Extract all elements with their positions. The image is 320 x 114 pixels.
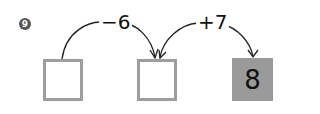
- answer-box-2-value: [140, 62, 174, 98]
- answer-box-2[interactable]: [137, 59, 177, 101]
- operation-label-2: +7: [196, 12, 229, 32]
- operation-label-1: −6: [99, 12, 132, 32]
- result-box: 8: [232, 58, 273, 101]
- result-box-value: 8: [235, 61, 270, 98]
- arrowhead-2-icon: [159, 50, 166, 58]
- answer-box-1-value: [46, 62, 80, 98]
- answer-box-1[interactable]: [43, 59, 83, 101]
